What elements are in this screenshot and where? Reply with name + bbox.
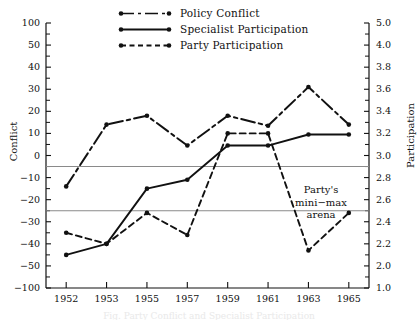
- y-tick-right-11: 2.0: [376, 261, 410, 271]
- y-tick-right-0: 5.0: [376, 18, 410, 28]
- series-lines: [64, 85, 351, 257]
- y-tick-right-2: 3.8: [376, 62, 410, 72]
- axes-frame: [46, 23, 369, 288]
- y-tick-right-6: 3.0: [376, 151, 410, 161]
- x-tick-1963: 1963: [288, 294, 328, 304]
- plot-area: [0, 0, 418, 320]
- arena-annotation-line1: Party's: [284, 184, 358, 197]
- y-tick-left-2: 40: [10, 62, 40, 72]
- arena-annotation-line3: arena: [284, 209, 358, 222]
- y-tick-right-7: 2.8: [376, 173, 410, 183]
- y-tick-right-8: 2.6: [376, 195, 410, 205]
- y-tick-right-1: 4.0: [376, 40, 410, 50]
- y-tick-left-0: 100: [10, 18, 40, 28]
- x-tick-1953: 1953: [87, 294, 127, 304]
- y-tick-right-5: 3.2: [376, 128, 410, 138]
- figure-caption-sliver: Fig. Party Conflict and Specialist Parti…: [0, 311, 418, 320]
- y-tick-left-5: 10: [10, 128, 40, 138]
- y-tick-left-6: 0: [10, 151, 40, 161]
- y-tick-left-12: −100: [10, 283, 40, 293]
- y-tick-right-9: 2.4: [376, 217, 410, 227]
- chart-figure: Policy Conflict Specialist Participation…: [0, 0, 418, 320]
- y-tick-right-12: 1.0: [376, 283, 410, 293]
- x-tick-1952: 1952: [46, 294, 86, 304]
- y-axis-label-left: Conflict: [8, 112, 19, 172]
- x-tick-1957: 1957: [167, 294, 207, 304]
- arena-annotation-line2: mini−max: [284, 197, 358, 210]
- y-tick-left-7: −10: [10, 173, 40, 183]
- y-tick-left-11: −50: [10, 261, 40, 271]
- y-tick-right-10: 2.2: [376, 239, 410, 249]
- y-tick-left-4: 20: [10, 106, 40, 116]
- y-tick-right-3: 3.6: [376, 84, 410, 94]
- y-tick-left-10: −40: [10, 239, 40, 249]
- y-tick-right-4: 3.4: [376, 106, 410, 116]
- x-tick-1955: 1955: [127, 294, 167, 304]
- x-tick-1961: 1961: [248, 294, 288, 304]
- y-tick-left-8: −20: [10, 195, 40, 205]
- x-tick-1965: 1965: [329, 294, 369, 304]
- y-tick-left-1: 50: [10, 40, 40, 50]
- x-tick-1959: 1959: [208, 294, 248, 304]
- y-tick-left-9: −30: [10, 217, 40, 227]
- y-tick-left-3: 30: [10, 84, 40, 94]
- arena-annotation: Party's mini−max arena: [284, 184, 358, 222]
